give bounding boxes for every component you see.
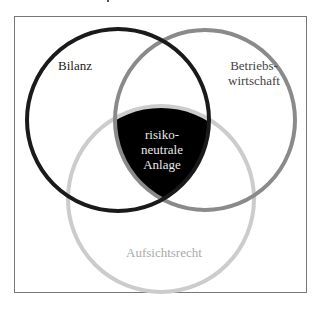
label-aufsichtsrecht: Aufsichtsrecht: [126, 245, 202, 260]
intersection-line3: Anlage: [132, 157, 192, 172]
intersection-line2: neutrale: [132, 142, 192, 157]
label-betriebswirtschaft: Betriebs- wirtschaft: [228, 58, 280, 88]
label-betriebswirtschaft-line1: Betriebs-: [228, 58, 280, 73]
label-intersection: risiko- neutrale Anlage: [132, 127, 192, 172]
intersection-line1: risiko-: [132, 127, 192, 142]
label-betriebswirtschaft-line2: wirtschaft: [228, 73, 280, 88]
label-bilanz: Bilanz: [58, 58, 92, 73]
